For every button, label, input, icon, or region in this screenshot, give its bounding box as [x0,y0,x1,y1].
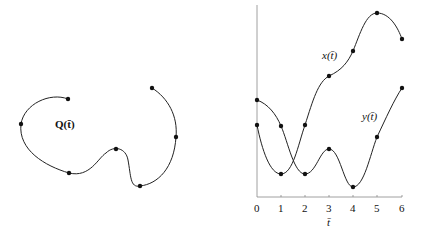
tick-5: 5 [374,202,380,214]
curve-points [19,86,178,188]
chart-points [255,11,404,189]
tick-2: 2 [302,202,308,214]
tick-1: 1 [278,202,284,214]
y-t-curve [257,88,402,187]
x-series-label: x(t̄) [322,49,337,61]
q-label: Q(t̄) [55,118,75,130]
y-series-label: y(t̄) [362,110,377,122]
tick-6: 6 [399,202,405,214]
parametric-curve [21,88,176,186]
tick-4: 4 [350,202,356,214]
tick-3: 3 [326,202,332,214]
axis-label-t: t̄ [327,216,330,228]
tick-0: 0 [254,202,260,214]
